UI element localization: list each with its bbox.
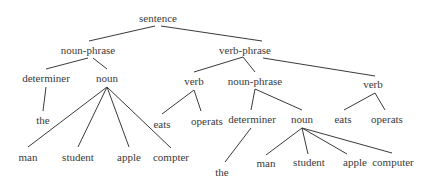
tree-edge xyxy=(375,93,385,110)
tree-edge xyxy=(89,26,155,41)
tree-edge xyxy=(194,90,201,111)
tree-node-eats2: eats xyxy=(334,114,351,125)
tree-node-vp: verb-phrase xyxy=(219,45,271,56)
tree-node-operats1: operats xyxy=(191,116,223,127)
tree-edge xyxy=(93,58,107,69)
tree-node-computer2: computer xyxy=(372,157,414,168)
tree-edge xyxy=(302,128,347,154)
tree-edge xyxy=(263,58,375,76)
tree-node-the1: the xyxy=(36,115,49,126)
tree-edge xyxy=(302,128,392,153)
tree-edge xyxy=(266,128,302,155)
tree-node-sentence: sentence xyxy=(139,13,177,24)
tree-node-man2: man xyxy=(257,158,276,169)
tree-edge xyxy=(161,26,262,41)
tree-edge xyxy=(344,93,375,110)
tree-node-det1: determiner xyxy=(22,73,70,84)
tree-node-man1: man xyxy=(19,152,38,163)
tree-node-np2: noun-phrase xyxy=(228,76,282,87)
tree-node-noun1: noun xyxy=(96,73,118,84)
tree-node-compter1: compter xyxy=(153,152,189,163)
tree-edge xyxy=(255,89,302,110)
tree-edge xyxy=(162,90,194,114)
tree-node-eats1: eats xyxy=(153,119,170,130)
tree-node-student1: student xyxy=(62,152,94,163)
tree-node-apple2: apple xyxy=(343,157,367,168)
tree-edge xyxy=(46,58,88,69)
tree-node-det2: determiner xyxy=(228,114,276,125)
parse-tree-diagram: sentencenoun-phraseverb-phrasedeterminer… xyxy=(0,0,429,187)
tree-edge xyxy=(302,128,308,154)
tree-edge xyxy=(251,89,255,110)
tree-edge xyxy=(43,87,46,111)
tree-edge xyxy=(194,57,243,72)
tree-node-noun2: noun xyxy=(291,114,313,125)
tree-node-operats2: operats xyxy=(371,114,403,125)
tree-node-apple1: apple xyxy=(117,152,141,163)
tree-node-verb1: verb xyxy=(184,76,204,87)
tree-node-student2: student xyxy=(293,157,325,168)
tree-node-verb2: verb xyxy=(363,79,383,90)
tree-edge xyxy=(78,87,107,147)
tree-edge xyxy=(243,57,255,72)
tree-node-the2: the xyxy=(215,167,228,178)
tree-node-np1: noun-phrase xyxy=(61,45,115,56)
tree-edge xyxy=(225,128,251,162)
tree-edge xyxy=(107,87,129,147)
